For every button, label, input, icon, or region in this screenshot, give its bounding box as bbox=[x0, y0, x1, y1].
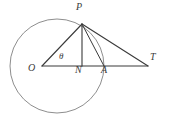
vertex-label-o: O bbox=[28, 63, 35, 73]
segment-pt bbox=[82, 24, 148, 66]
vertex-label-p: P bbox=[76, 2, 82, 12]
geometry-diagram: O P N A T θ bbox=[0, 0, 169, 120]
angle-label-theta: θ bbox=[59, 52, 63, 61]
geometry-canvas bbox=[0, 0, 169, 120]
vertex-label-t: T bbox=[150, 52, 156, 62]
vertex-label-n: N bbox=[75, 65, 82, 75]
segment-pa bbox=[82, 24, 104, 66]
vertex-label-a: A bbox=[101, 65, 107, 75]
